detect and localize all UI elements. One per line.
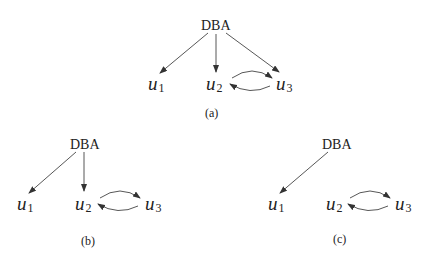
edge-u2-u3-c [350,191,390,198]
u1-sub: 1 [279,201,285,215]
edge-u3-u2-a [230,84,270,91]
u2-sub: 2 [217,81,223,95]
u2-base: u [326,193,336,214]
u1-base: u [148,73,158,94]
u1-base: u [268,193,278,214]
u2-node-c: u2 [326,194,343,213]
edge-dba-u1-a [160,33,208,73]
u3-base: u [395,193,405,214]
u3-node-a: u3 [276,74,293,93]
u1-sub: 1 [28,201,34,215]
u3-sub: 3 [287,81,293,95]
edge-dba-u1-c [280,152,328,193]
edges-layer [0,0,432,256]
u2-node-b: u2 [75,194,92,213]
u2-sub: 2 [337,201,343,215]
u3-sub: 3 [156,201,162,215]
u3-node-b: u3 [145,194,162,213]
dba-node-a: DBA [201,19,231,33]
u1-base: u [17,193,27,214]
caption-a: (a) [205,106,218,121]
edge-u3-u2-b [98,204,138,211]
u2-sub: 2 [86,201,92,215]
u1-sub: 1 [159,81,165,95]
u3-node-c: u3 [395,194,412,213]
u2-base: u [75,193,85,214]
dba-node-c: DBA [322,138,352,152]
caption-c: (c) [333,232,346,247]
u1-node-c: u1 [268,194,285,213]
edge-u2-u3-a [232,71,272,78]
u3-sub: 3 [406,201,412,215]
u1-node-a: u1 [148,74,165,93]
dba-node-b: DBA [70,138,100,152]
u3-base: u [276,73,286,94]
edge-dba-u3-a [226,33,279,72]
u1-node-b: u1 [17,194,34,213]
edge-dba-u1-b [29,152,76,193]
edge-u2-u3-b [100,191,140,198]
caption-b: (b) [81,234,95,249]
u2-node-a: u2 [206,74,223,93]
u3-base: u [145,193,155,214]
u2-base: u [206,73,216,94]
edge-u3-u2-c [348,204,388,211]
